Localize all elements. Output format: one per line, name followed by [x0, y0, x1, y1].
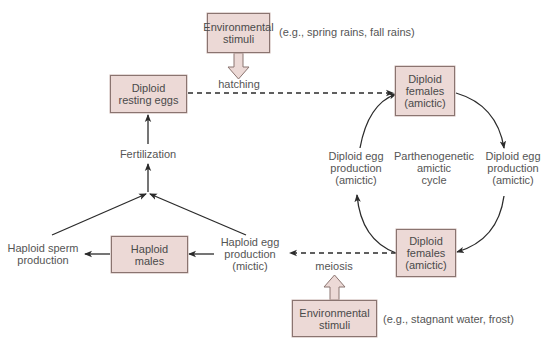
males-box: Haploid males — [111, 236, 188, 273]
cycle-arc-top-right — [456, 93, 504, 148]
egg-production-right: Diploid egg production (amictic) — [477, 150, 549, 186]
sperm-production: Haploid sperm production — [6, 242, 80, 266]
egg-production-right-line2: production — [477, 162, 549, 174]
females-top-line2: females — [406, 85, 445, 97]
env-stimuli-top-example: (e.g., spring rains, fall rains) — [279, 26, 415, 38]
env-stimuli-top-line2: stimuli — [223, 33, 254, 45]
females-bottom-line2: females — [407, 247, 446, 259]
sperm-production-line2: production — [6, 254, 80, 266]
hatching-label: hatching — [216, 78, 262, 90]
females-top-line3: (amictic) — [404, 97, 446, 109]
haploid-egg-production-line1: Haploid egg — [215, 236, 285, 248]
env-stimuli-bottom-box: Environmental stimuli — [292, 300, 377, 337]
cycle-label-line3: cycle — [392, 174, 476, 186]
env-stimuli-bottom-line2: stimuli — [319, 319, 350, 331]
egg-production-right-line3: (amictic) — [477, 174, 549, 186]
haploid-egg-to-junction-arrow — [150, 194, 246, 235]
egg-production-left: Diploid egg production (amictic) — [318, 150, 394, 186]
env-stimuli-top-line1: Environmental — [203, 21, 273, 33]
haploid-egg-production-line3: (mictic) — [215, 260, 285, 272]
egg-production-left-line3: (amictic) — [318, 174, 394, 186]
females-bottom-line3: (amictic) — [405, 259, 447, 271]
haploid-egg-production-line2: production — [215, 248, 285, 260]
env-stimuli-top-box: Environmental stimuli — [207, 13, 270, 53]
resting-eggs-box: Diploid resting eggs — [110, 75, 187, 113]
females-bottom-line1: Diploid — [409, 235, 443, 247]
males-line2: males — [135, 255, 164, 267]
sperm-to-junction-arrow — [52, 194, 146, 235]
fertilization-label: Fertilization — [112, 148, 184, 160]
cycle-arc-top-left — [360, 94, 396, 148]
males-line1: Haploid — [131, 243, 168, 255]
egg-production-left-line1: Diploid egg — [318, 150, 394, 162]
meiosis-label: meiosis — [311, 260, 357, 272]
females-top-line1: Diploid — [408, 73, 442, 85]
resting-eggs-line2: resting eggs — [119, 94, 179, 106]
cycle-label-line2: amictic — [392, 162, 476, 174]
env-stimuli-bottom-block-arrow — [324, 275, 345, 300]
env-stimuli-bottom-line1: Environmental — [299, 307, 369, 319]
females-top-box: Diploid females (amictic) — [395, 66, 455, 116]
cycle-label: Parthenogenetic amictic cycle — [392, 150, 476, 186]
cycle-arc-bottom-left — [357, 195, 396, 253]
resting-eggs-line1: Diploid — [132, 82, 166, 94]
env-stimuli-top-block-arrow — [228, 53, 249, 79]
sperm-production-line1: Haploid sperm — [6, 242, 80, 254]
egg-production-right-line1: Diploid egg — [477, 150, 549, 162]
haploid-egg-production: Haploid egg production (mictic) — [215, 236, 285, 272]
env-stimuli-bottom-example: (e.g., stagnant water, frost) — [383, 313, 514, 325]
egg-production-left-line2: production — [318, 162, 394, 174]
cycle-label-line1: Parthenogenetic — [392, 150, 476, 162]
females-bottom-box: Diploid females (amictic) — [396, 229, 456, 277]
cycle-arc-bottom-right — [457, 196, 504, 252]
